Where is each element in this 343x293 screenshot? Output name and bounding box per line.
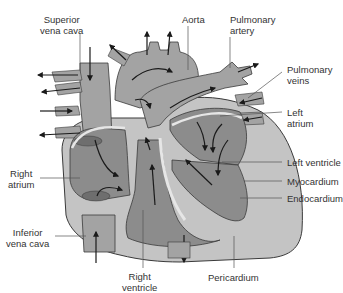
label-inferior-vena-cava: Inferior vena cava — [6, 227, 49, 249]
label-endocardium: Endocardium — [287, 193, 343, 204]
label-right-atrium: Right atrium — [8, 168, 34, 190]
label-superior-vena-cava: Superior vena cava — [40, 14, 83, 36]
tricuspid-valve-bottom — [82, 191, 110, 201]
label-myocardium: Myocardium — [287, 176, 339, 187]
label-pulmonary-artery: Pulmonary artery — [230, 14, 275, 36]
heart-illustration — [0, 0, 343, 293]
label-left-ventricle: Left ventricle — [287, 157, 341, 168]
label-left-atrium: Left atrium — [287, 107, 313, 129]
label-pulmonary-veins: Pulmonary veins — [287, 64, 332, 86]
label-right-ventricle: Right ventricle — [122, 271, 157, 293]
label-aorta: Aorta — [182, 14, 205, 25]
heart-diagram: Superior vena cava Aorta Pulmonary arter… — [0, 0, 343, 293]
inferior-vena-cava-shape — [82, 215, 115, 252]
label-pericardium: Pericardium — [208, 272, 259, 283]
